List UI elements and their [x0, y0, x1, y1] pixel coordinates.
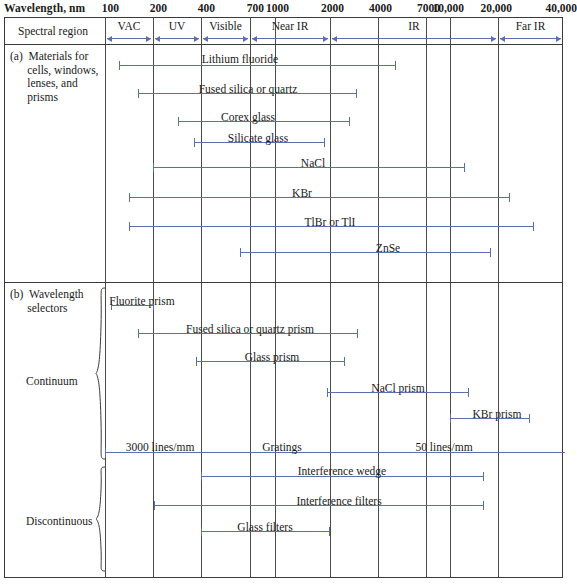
section-heading-b: (b) Wavelength selectors: [10, 288, 84, 315]
gridline-vertical: [250, 17, 251, 578]
axis-tick-label: 2000: [321, 2, 344, 14]
group-label: Discontinuous: [26, 515, 92, 527]
range-bar-label: ZnSe: [376, 242, 400, 254]
section-heading-a: (a) Materials for cells, windows, lenses…: [10, 50, 98, 104]
axis-tick-label: 400: [198, 2, 215, 14]
range-bar-cap-left: [129, 193, 130, 202]
range-bar-cap-right: [395, 61, 396, 70]
range-bar-cap-left: [201, 527, 202, 536]
spectral-region-arrow: [252, 38, 328, 39]
range-bar-cap-left: [119, 61, 120, 70]
range-bar-cap-right: [357, 329, 358, 338]
range-bar-cap-right: [533, 222, 534, 231]
group-label: Continuum: [26, 375, 78, 387]
range-bar-cap-left: [154, 501, 155, 510]
range-bar-cap-right: [464, 163, 465, 172]
range-bar-label: Glass prism: [245, 351, 300, 363]
range-bar: [119, 65, 396, 66]
axis-tick-label: 10,000: [432, 2, 464, 14]
gridline-vertical: [450, 17, 451, 578]
range-bar-cap-right: [329, 527, 330, 536]
range-bar-label: Fluorite prism: [109, 295, 175, 307]
range-bar-cap-right: [509, 193, 510, 202]
range-bar-cap-right: [483, 472, 484, 481]
range-bar-cap-left: [178, 117, 179, 126]
range-bar-cap-left: [201, 472, 202, 481]
gridline-vertical: [426, 17, 427, 578]
axis-tick-label: 40,000: [545, 2, 577, 14]
group-brace: [95, 287, 106, 460]
axis-tick-label: 700: [247, 2, 264, 14]
spectral-region-label: Near IR: [272, 20, 309, 32]
range-bar-label: NaCl: [301, 157, 325, 169]
spectral-region-arrow: [107, 38, 151, 39]
group-brace: [95, 466, 106, 572]
range-bar-cap-left: [138, 329, 139, 338]
spectral-region-label: VAC: [118, 20, 141, 32]
range-bar-cap-right: [324, 138, 325, 147]
range-bar-label: 50 lines/mm: [415, 441, 472, 453]
section-divider: [4, 44, 563, 45]
gridline-vertical: [275, 17, 276, 578]
gridline-vertical: [330, 17, 331, 578]
range-bar-cap-right: [529, 414, 530, 423]
range-bar-label: NaCl prism: [371, 382, 424, 394]
spectral-region-arrow: [155, 38, 199, 39]
axis-tick-label: 200: [150, 2, 167, 14]
gridline-vertical: [498, 17, 499, 578]
range-bar-cap-left: [138, 89, 139, 98]
spectral-region-label: Visible: [209, 20, 242, 32]
spectral-region-label: UV: [169, 20, 186, 32]
axis-tick-label: 1000: [266, 2, 289, 14]
section-divider: [4, 282, 563, 283]
range-bar-label: Interference filters: [296, 495, 381, 507]
axis-title: Wavelength, nm: [4, 2, 85, 14]
range-bar-label: Lithium fluoride: [202, 53, 278, 65]
range-bar-label: Interference wedge: [298, 465, 386, 477]
range-bar-label: Glass filters: [237, 521, 292, 533]
spectral-region-label: IR: [408, 20, 420, 32]
spectral-region-label: Far IR: [516, 20, 546, 32]
range-bar-label: TlBr or TlI: [305, 216, 356, 228]
range-bar-cap-left: [153, 163, 154, 172]
range-bar-cap-left: [196, 357, 197, 366]
range-bar-cap-left: [450, 414, 451, 423]
spectral-region-arrow: [500, 38, 561, 39]
gridline-vertical: [201, 17, 202, 578]
spectral-region-row-label: Spectral region: [18, 25, 88, 37]
range-bar-cap-left: [327, 388, 328, 397]
range-bar: [129, 197, 510, 198]
range-bar-cap-right: [356, 89, 357, 98]
range-bar-cap-right: [468, 388, 469, 397]
spectral-region-arrow: [332, 38, 496, 39]
spectral-region-arrow: [203, 38, 248, 39]
range-bar-label: KBr prism: [473, 408, 522, 420]
range-bar-cap-left: [194, 138, 195, 147]
axis-tick-label: 4000: [369, 2, 392, 14]
range-bar-cap-left: [129, 222, 130, 231]
range-bar-cap-right: [344, 357, 345, 366]
gridline-vertical: [378, 17, 379, 578]
range-bar-cap-right: [349, 117, 350, 126]
range-bar: [240, 252, 491, 253]
axis-tick-label: 100: [102, 2, 119, 14]
range-bar-cap-left: [240, 248, 241, 257]
range-bar-cap-right: [483, 501, 484, 510]
range-bar-label: Fused silica or quartz: [199, 83, 298, 95]
range-bar-label: Silicate glass: [228, 132, 288, 144]
range-bar-label: Fused silica or quartz prism: [186, 323, 314, 335]
range-bar-label: KBr: [292, 187, 312, 199]
axis-tick-label: 20,000: [480, 2, 512, 14]
range-bar-label: Gratings: [262, 441, 302, 453]
range-bar-label: Corex glass: [221, 111, 275, 123]
range-bar-cap-right: [490, 248, 491, 257]
range-bar-label: 3000 lines/mm: [126, 441, 195, 453]
